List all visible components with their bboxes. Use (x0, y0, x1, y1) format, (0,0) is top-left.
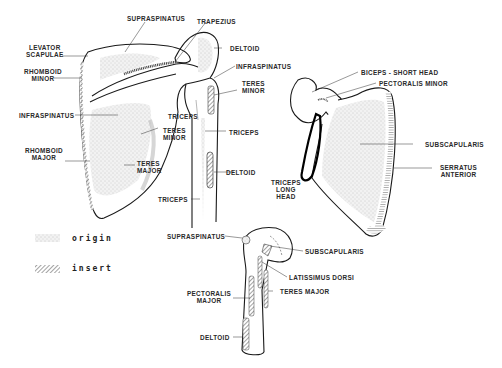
label-triceps-upper: TRICEPS (168, 113, 198, 120)
label-rhomboid-major: RHOMBOID MAJOR (25, 147, 63, 161)
legend-insert-label: insert (72, 264, 113, 273)
legend-swatch-origin (35, 234, 60, 242)
label-teres-major: TERES MAJOR (137, 160, 162, 174)
label-pectoralis-major: PECTORALIS MAJOR (187, 290, 231, 304)
label-infraspinatus-left: INFRASPINATUS (19, 112, 74, 119)
legend-origin-label: origin (72, 234, 113, 243)
anatomy-diagram (0, 0, 502, 368)
label-humerus-deltoid: DELTOID (200, 334, 230, 341)
label-deltoid-top: DELTOID (230, 45, 260, 52)
label-trapezius: TRAPEZIUS (197, 18, 236, 25)
label-pectoralis-minor: PECTORALIS MINOR (379, 80, 448, 87)
label-levator-scapulae: LEVATOR SCAPULAE (26, 44, 64, 58)
label-infraspinatus-right: INFRASPINATUS (236, 63, 291, 70)
label-humerus-subscapularis: SUBSCAPULARIS (305, 248, 364, 255)
label-serratus-anterior: SERRATUS ANTERIOR (440, 164, 477, 178)
label-triceps-long-head: TRICEPS LONG HEAD (271, 179, 301, 200)
anterior-scapula (291, 78, 396, 236)
label-teres-minor-left: TERES MINOR (163, 127, 186, 141)
label-supraspinatus: SUPRASPINATUS (127, 15, 185, 22)
label-triceps-right: TRICEPS (229, 129, 259, 136)
label-humerus-supraspinatus: SUPRASPINATUS (167, 233, 225, 240)
label-subscapularis-anterior: SUBSCAPULARIS (425, 141, 484, 148)
label-triceps-bottom: TRICEPS (158, 196, 188, 203)
label-rhomboid-minor: RHOMBOID MINOR (24, 68, 62, 82)
label-deltoid-mid: DELTOID (226, 169, 256, 176)
label-biceps-short-head: BICEPS - SHORT HEAD (361, 69, 438, 76)
legend-swatch-insert (35, 265, 60, 273)
label-teres-minor-right: TERES MINOR (242, 80, 265, 94)
label-humerus-teres-major: TERES MAJOR (280, 288, 329, 295)
label-latissimus-dorsi: LATISSIMUS DORSI (289, 274, 354, 281)
posterior-scapula (80, 32, 219, 228)
